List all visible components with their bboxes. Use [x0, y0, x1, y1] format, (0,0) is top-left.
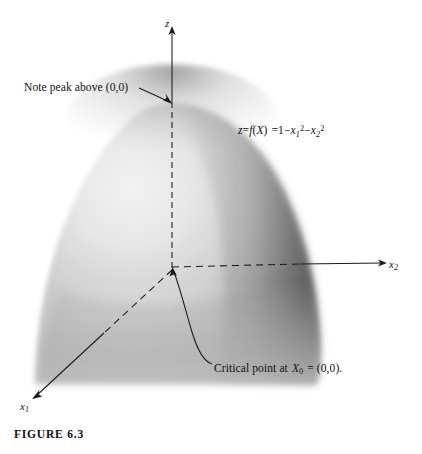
- x2-axis-solid-segment: [300, 263, 383, 264]
- note-peak-annotation: Note peak above (0,0): [24, 81, 128, 93]
- equation-paren-close: ): [264, 124, 268, 136]
- critical-point-text-prefix: Critical point at: [214, 362, 288, 374]
- x1-axis-label-subscript: 1: [25, 405, 29, 414]
- x1-axis-label: x1: [20, 400, 29, 414]
- equation-minus-1: −: [284, 124, 291, 136]
- critical-point-variable: X: [292, 362, 299, 374]
- z-axis-label: z: [165, 17, 169, 29]
- x2-axis-label-subscript: 2: [394, 263, 398, 272]
- critical-point-value: = (0,0).: [307, 362, 342, 374]
- surface-body-group: [36, 64, 321, 384]
- equation-minus-2: −: [304, 124, 311, 136]
- surface-equation-annotation: z=f(X)=1−x12−x22: [238, 124, 324, 139]
- paraboloid-surface-plot: [0, 0, 422, 454]
- figure-caption: FIGURE 6.3: [14, 428, 84, 440]
- x2-axis-label: x2: [389, 258, 398, 272]
- equation-arg-X: X: [256, 124, 263, 136]
- figure-container: Note peak above (0,0) z=f(X)=1−x12−x22 C…: [0, 0, 422, 454]
- critical-point-annotation: Critical point atX0= (0,0).: [214, 362, 342, 376]
- equation-pow-2: 2: [320, 124, 324, 133]
- critical-point-subscript: 0: [299, 367, 303, 376]
